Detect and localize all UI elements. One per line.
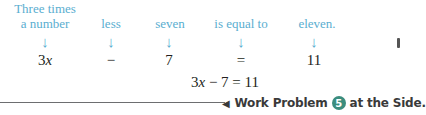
pointer-left-icon: ◀	[222, 98, 230, 109]
phrase-is-equal-to: is equal to	[205, 17, 277, 31]
resulting-equation: 3x − 7 = 11	[150, 74, 300, 90]
down-arrow-icon: ↓	[101, 34, 121, 50]
phrase-seven: seven	[145, 17, 195, 31]
term-seven: 7	[149, 52, 189, 68]
work-problem-suffix: at the Side.	[350, 96, 426, 110]
section-divider	[0, 102, 225, 103]
phrase-three-times: Three times	[0, 2, 90, 16]
equation-rest: − 7 = 11	[205, 74, 259, 90]
term-equals: =	[221, 52, 261, 68]
problem-number-badge: 5	[332, 96, 346, 110]
work-problem-reference: ◀ Work Problem 5 at the Side.	[222, 94, 426, 112]
phrase-less: less	[90, 17, 132, 31]
term-3x: 3x	[25, 52, 65, 68]
cropped-margin-mark	[397, 38, 400, 48]
work-problem-prefix: Work Problem	[235, 96, 328, 110]
down-arrow-icon: ↓	[231, 34, 251, 50]
phrase-a-number: a number	[0, 17, 90, 31]
term-minus: −	[91, 52, 131, 68]
term-eleven: 11	[294, 52, 334, 68]
term-variable: x	[45, 52, 52, 68]
down-arrow-icon: ↓	[159, 34, 179, 50]
phrase-eleven: eleven.	[290, 17, 344, 31]
down-arrow-icon: ↓	[304, 34, 324, 50]
down-arrow-icon: ↓	[35, 34, 55, 50]
